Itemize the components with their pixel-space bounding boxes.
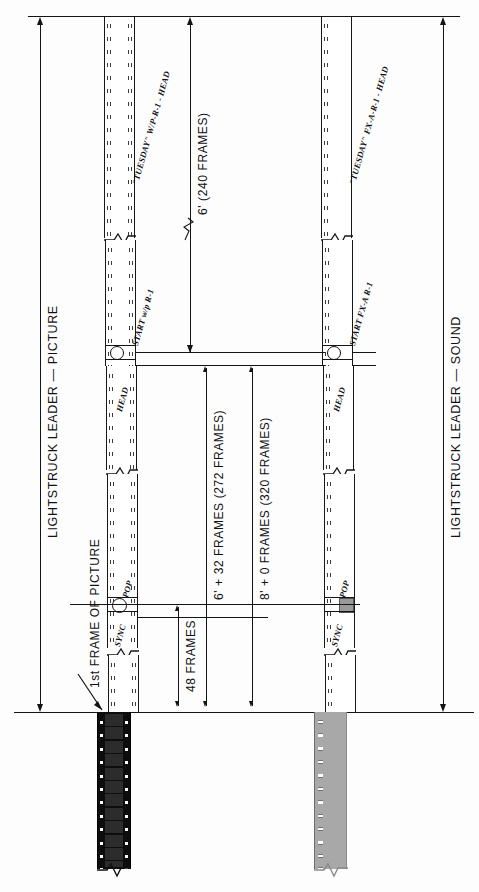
sprocket-column-right	[129, 240, 133, 366]
sound-leader-label: LIGHTSTRUCK LEADER — SOUND	[449, 316, 463, 538]
sprocket-column-right	[131, 474, 135, 648]
picture-strip-segment-tail	[108, 655, 139, 712]
picture-head-handwritten-label: "TUESDAY" W/P-R-1 - HEAD	[130, 70, 172, 186]
picture-strip-top-cap	[104, 16, 135, 17]
sound-head-rule-lower	[322, 359, 353, 360]
sprocket-column-left	[324, 16, 328, 238]
picture-strip-segment-mid	[106, 366, 137, 470]
sprocket-column-left	[327, 474, 331, 648]
pop-witness-line	[70, 604, 360, 605]
sound-strip-top-cap	[321, 16, 352, 17]
dim-272-arrow-top	[203, 366, 207, 372]
break-mark-icon	[95, 862, 135, 880]
picture-pop-rule-lower	[107, 611, 138, 612]
dim-240-label: 6' (240 FRAMES)	[196, 112, 210, 215]
picture-dimension-arrow-bottom	[37, 704, 43, 712]
dim-240-line	[190, 20, 191, 352]
dim-272-arrow-bottom	[203, 701, 207, 707]
sprocket-column-left	[326, 366, 330, 470]
sound-head-rule-upper	[322, 345, 353, 346]
dim-240-break-icon	[181, 216, 201, 242]
dim-240-arrow-top	[187, 17, 193, 25]
sprocket-column-right	[132, 655, 136, 712]
pop-witness-line-lower	[138, 617, 268, 618]
dim-48-line	[178, 607, 179, 706]
break-mark-icon	[312, 862, 352, 880]
sound-strip-segment-tail	[325, 655, 356, 712]
dim-320-line	[252, 368, 253, 706]
sound-dimension-arrow-bottom	[440, 704, 446, 712]
sprocket-column-right	[128, 16, 132, 238]
picture-strip-segment-pop	[107, 474, 138, 648]
sound-pop-rule-lower	[324, 611, 355, 612]
first-frame-callout-arrow	[72, 668, 112, 718]
sprocket-column-left	[328, 655, 332, 712]
sound-strip-segment-mid	[323, 366, 354, 470]
exposed-picture-film	[97, 712, 131, 869]
sprocket-column-left	[110, 474, 114, 648]
dim-320-label: 8' + 0 FRAMES (320 FRAMES)	[258, 417, 272, 600]
sprocket-column-left	[107, 16, 111, 238]
picture-head-rule-upper	[105, 345, 136, 346]
sound-strip-segment-head	[321, 16, 352, 238]
picture-leader-label: LIGHTSTRUCK LEADER — PICTURE	[46, 305, 60, 538]
head-witness-line-sound-right-2	[352, 365, 376, 366]
film-sprockets-left	[318, 712, 323, 869]
first-frame-of-picture-label: 1st FRAME OF PICTURE	[88, 539, 102, 688]
picture-dimension-arrow-top	[37, 17, 43, 25]
sound-leader-dimension-line	[443, 20, 444, 708]
sound-film-stock	[314, 712, 347, 869]
dim-240-arrow-bottom	[187, 345, 193, 353]
film-sprockets-right	[125, 712, 128, 869]
picture-pop-rule-upper	[107, 597, 138, 598]
sound-head-handwritten-label: "TUESDAY" FX-A-R-1 - HEAD	[347, 65, 390, 186]
head-witness-line-picture	[135, 352, 325, 353]
sprocket-column-left	[109, 366, 113, 470]
film-frames	[105, 714, 123, 867]
dim-48-arrow-bottom	[175, 701, 179, 707]
sound-dimension-arrow-top	[440, 17, 446, 25]
dim-272-line	[206, 368, 207, 706]
dim-320-arrow-top	[249, 366, 253, 372]
dim-48-arrow-top	[175, 605, 179, 611]
head-witness-line-sound	[135, 365, 325, 366]
sound-strip-segment-pop	[324, 474, 355, 648]
picture-head-punch-mark	[110, 346, 124, 360]
sound-head-punch-mark	[327, 346, 341, 360]
sprocket-column-right	[130, 366, 134, 470]
top-reference-line	[28, 16, 460, 17]
head-witness-line-sound-right	[352, 352, 376, 353]
picture-head-rule-lower	[105, 359, 136, 360]
dim-320-arrow-bottom	[249, 701, 253, 707]
sound-pop-rule-upper	[324, 597, 355, 598]
picture-leader-dimension-line	[40, 20, 41, 708]
dim-48-label: 48 FRAMES	[184, 620, 198, 692]
film-sprockets-left	[100, 712, 103, 869]
dim-272-label: 6' + 32 FRAMES (272 FRAMES)	[212, 410, 226, 600]
picture-strip-segment-head	[104, 16, 135, 238]
film-leader-sync-diagram: LIGHTSTRUCK LEADER — PICTURE LIGHTSTRUCK…	[0, 0, 479, 892]
